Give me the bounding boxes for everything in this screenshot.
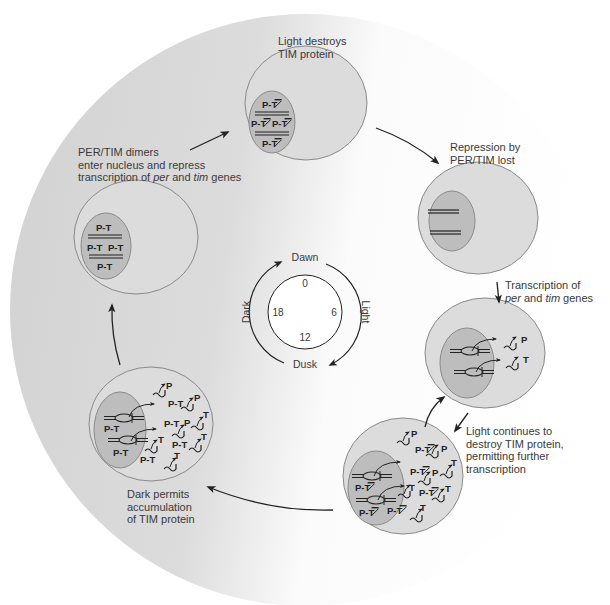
clock-dark-label: Dark bbox=[240, 300, 252, 323]
clock-hour-0: 0 bbox=[302, 278, 308, 289]
svg-text:T: T bbox=[203, 409, 209, 420]
clock-dusk-label: Dusk bbox=[293, 358, 318, 370]
caption-dimers-enter-nucleus: PER/TIM dimers enter nucleus and repress… bbox=[78, 146, 241, 184]
gene-name-tim: tim bbox=[545, 292, 560, 304]
clock-dawn-label: Dawn bbox=[292, 251, 319, 263]
caption-line: per and tim genes bbox=[505, 292, 593, 305]
svg-text:P-T: P-T bbox=[140, 454, 156, 465]
svg-text:P-T: P-T bbox=[172, 439, 188, 450]
protein-label: T bbox=[523, 354, 529, 365]
caption-text: and bbox=[521, 292, 545, 304]
caption-dark-accumulation: Dark permits accumulation of TIM protein bbox=[127, 488, 195, 526]
caption-line: destroy TIM protein, bbox=[466, 438, 564, 451]
caption-line: Dark permits bbox=[127, 488, 195, 501]
clock-light-label: Light bbox=[360, 301, 372, 324]
clock-hour-6: 6 bbox=[331, 307, 337, 318]
cell-light-continues: P P P T T T T bbox=[343, 418, 463, 534]
svg-text:T: T bbox=[201, 431, 207, 442]
circadian-cycle-diagram: P-T bbox=[0, 0, 610, 605]
svg-text:P-T: P-T bbox=[96, 222, 112, 233]
svg-text:T: T bbox=[409, 482, 415, 493]
svg-text:P-T: P-T bbox=[113, 447, 129, 458]
nucleus bbox=[440, 328, 494, 398]
svg-text:P-T: P-T bbox=[164, 418, 180, 429]
caption-line: transcription of per and tim genes bbox=[78, 171, 241, 184]
caption-line: transcription bbox=[466, 463, 564, 476]
caption-line: of TIM protein bbox=[127, 513, 195, 526]
svg-text:P: P bbox=[441, 443, 448, 454]
clock-hour-18: 18 bbox=[272, 307, 284, 318]
caption-line: enter nucleus and repress bbox=[78, 159, 241, 172]
caption-text: genes bbox=[560, 292, 593, 304]
svg-text:P: P bbox=[411, 428, 418, 439]
gene-name-tim: tim bbox=[194, 171, 209, 183]
svg-text:P: P bbox=[432, 467, 439, 478]
caption-line: TIM protein bbox=[278, 48, 346, 61]
svg-text:P: P bbox=[194, 392, 201, 403]
gene-name-per: per bbox=[153, 171, 169, 183]
protein-label: P bbox=[521, 334, 528, 345]
clock-hour-12: 12 bbox=[299, 332, 311, 343]
caption-line: accumulation bbox=[127, 501, 195, 514]
caption-line: Transcription of bbox=[505, 279, 593, 292]
cell-repression-lost bbox=[418, 162, 538, 274]
svg-text:T: T bbox=[158, 434, 164, 445]
svg-text:T: T bbox=[420, 502, 426, 513]
svg-text:P: P bbox=[184, 417, 191, 428]
svg-text:P-T: P-T bbox=[168, 398, 184, 409]
svg-text:P-T: P-T bbox=[87, 242, 103, 253]
caption-line: Light destroys bbox=[278, 35, 346, 48]
cell-dimers-enter-nucleus: P-T P-T P-T P-T bbox=[74, 180, 198, 294]
caption-text: transcription of bbox=[78, 171, 153, 183]
cell-light-destroys-tim bbox=[245, 46, 367, 160]
caption-line: permitting further bbox=[466, 450, 564, 463]
svg-text:P-T: P-T bbox=[108, 242, 124, 253]
svg-text:P: P bbox=[166, 380, 173, 391]
caption-light-continues: Light continues to destroy TIM protein, … bbox=[466, 425, 564, 475]
nucleus bbox=[429, 191, 475, 251]
svg-text:P-T: P-T bbox=[104, 423, 120, 434]
gene-name-per: per bbox=[505, 292, 521, 304]
caption-light-destroys-tim: Light destroys TIM protein bbox=[278, 35, 346, 60]
caption-line: PER/TIM lost bbox=[450, 154, 520, 167]
caption-line: Light continues to bbox=[466, 425, 564, 438]
caption-line: PER/TIM dimers bbox=[78, 146, 241, 159]
cell-dark-accumulation: P-T P-T P P-T P P-T P T T P-T T P-T T bbox=[89, 367, 213, 481]
svg-text:T: T bbox=[174, 450, 180, 461]
svg-text:T: T bbox=[445, 483, 451, 494]
caption-text: and bbox=[169, 171, 193, 183]
caption-transcription: Transcription of per and tim genes bbox=[505, 279, 593, 304]
svg-text:T: T bbox=[451, 457, 457, 468]
svg-text:P-T: P-T bbox=[97, 261, 113, 272]
cell-transcription: P T bbox=[425, 298, 545, 408]
caption-line: Repression by bbox=[450, 141, 520, 154]
caption-text: genes bbox=[208, 171, 241, 183]
caption-repression-lost: Repression by PER/TIM lost bbox=[450, 141, 520, 166]
